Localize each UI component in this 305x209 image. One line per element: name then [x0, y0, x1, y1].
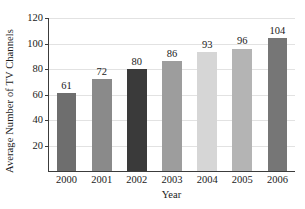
y-tick-label: 100 — [27, 38, 43, 49]
bar-value-label: 80 — [132, 57, 143, 68]
x-tick-label: 2001 — [91, 175, 112, 186]
y-tick-label: 80 — [33, 64, 44, 75]
x-tick-label: 2006 — [267, 175, 288, 186]
bar: 722001 — [92, 79, 112, 171]
x-tick-label: 2002 — [126, 175, 147, 186]
bar-chart-figure: Average Number of TV Channels 2040608010… — [0, 0, 305, 209]
bar-value-label: 86 — [167, 49, 178, 60]
bar: 962005 — [232, 49, 252, 171]
y-tick-label: 120 — [27, 13, 43, 24]
bar-value-label: 93 — [202, 40, 213, 51]
y-tick-mark — [45, 69, 49, 70]
y-tick-label: 40 — [33, 115, 44, 126]
bar: 802002 — [127, 69, 147, 171]
bar-value-label: 104 — [270, 26, 286, 37]
x-tick-label: 2000 — [56, 175, 77, 186]
bar: 862003 — [162, 61, 182, 171]
x-axis-title: Year — [48, 190, 295, 201]
y-tick-label: 60 — [33, 89, 44, 100]
x-tick-label: 2005 — [232, 175, 253, 186]
bar-value-label: 96 — [237, 36, 248, 47]
y-tick-label: 20 — [33, 140, 44, 151]
bar-value-label: 61 — [61, 81, 72, 92]
bar-value-label: 72 — [96, 67, 107, 78]
gridline — [49, 44, 295, 45]
bar: 932004 — [197, 52, 217, 171]
y-tick-mark — [45, 44, 49, 45]
bar: 612000 — [57, 93, 77, 171]
y-tick-mark — [45, 120, 49, 121]
x-tick-label: 2003 — [161, 175, 182, 186]
bar: 1042006 — [268, 38, 288, 171]
y-tick-mark — [45, 18, 49, 19]
y-tick-mark — [45, 95, 49, 96]
plot-area: 2040608010012061200072200180200286200393… — [48, 18, 295, 172]
x-tick-label: 2004 — [197, 175, 218, 186]
y-axis-title: Average Number of TV Channels — [2, 16, 18, 186]
y-tick-mark — [45, 146, 49, 147]
gridline — [49, 18, 295, 19]
